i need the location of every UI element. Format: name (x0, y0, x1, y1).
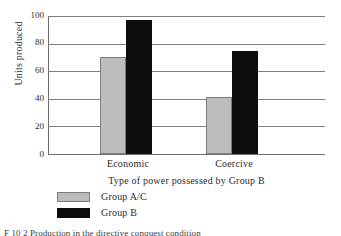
bar-economic-group-ac (100, 57, 126, 154)
y-tick-label-100: 100 (18, 11, 44, 20)
legend-swatch-icon-group-ac (57, 192, 90, 202)
legend-item-group-ac: Group A/C (57, 190, 147, 203)
x-category-label-economic: Economic (78, 158, 178, 169)
legend-label-group-ac: Group A/C (101, 191, 147, 202)
figure-caption: F 10 2 Production in the directive conqu… (4, 228, 341, 236)
legend-label-group-b: Group B (101, 207, 137, 218)
gridline-baseline-0 (48, 154, 325, 155)
y-tick-label-0: 0 (18, 150, 44, 159)
bar-chart-figure: Units produced 100 80 60 40 20 0 Economi… (0, 0, 341, 236)
plot-area (48, 16, 325, 154)
gridline-60 (48, 71, 325, 72)
y-tick-label-60: 60 (18, 66, 44, 75)
chart-legend: Group A/C Group B (57, 190, 147, 222)
x-axis-title: Type of power possessed by Group B (48, 175, 325, 186)
y-tick-label-20: 20 (18, 122, 44, 131)
bar-coercive-group-ac (206, 97, 232, 154)
legend-item-group-b: Group B (57, 206, 147, 219)
x-category-label-coercive: Coercive (184, 158, 284, 169)
gridline-40 (48, 99, 325, 100)
bar-economic-group-b (126, 20, 152, 154)
y-tick-label-40: 40 (18, 94, 44, 103)
legend-swatch-icon-group-b (57, 208, 90, 218)
gridline-20 (48, 126, 325, 127)
gridline-80 (48, 44, 325, 45)
bar-coercive-group-b (232, 51, 258, 155)
y-tick-label-80: 80 (18, 38, 44, 47)
gridline-100 (48, 16, 325, 17)
